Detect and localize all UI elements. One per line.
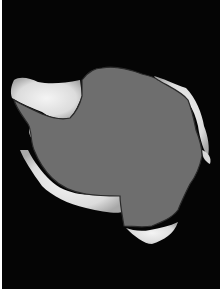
- map-canvas: [2, 0, 220, 289]
- sea-ice-map: [2, 0, 220, 289]
